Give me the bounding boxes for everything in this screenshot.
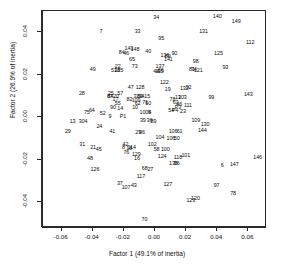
data-point-label: 61 (177, 129, 183, 134)
x-tick-mark (123, 227, 124, 231)
data-point-label: 39 (140, 118, 146, 123)
data-point-label: 31 (79, 142, 85, 147)
y-tick-mark (37, 159, 41, 160)
data-point-label: 125 (214, 51, 223, 56)
data-point-label: 143 (244, 93, 253, 98)
data-point-label: 131 (199, 30, 208, 35)
data-point-label: 96 (139, 130, 145, 135)
data-point-label: 23 (180, 109, 186, 114)
data-point-label: 48 (87, 156, 93, 161)
data-point-label: 78 (230, 192, 236, 197)
data-point-label: 45 (96, 147, 102, 152)
data-point-label: 50 (174, 136, 180, 141)
data-point-label: 76 (123, 150, 129, 155)
data-point-label: 90 (110, 105, 116, 110)
x-tick-label: -0.02 (116, 233, 130, 240)
data-point-label: 128 (136, 85, 145, 90)
data-point-label: 64 (89, 109, 95, 114)
data-point-label: 28 (79, 92, 85, 97)
data-point-label: 95 (158, 36, 164, 41)
data-point-label: 97 (214, 183, 220, 188)
y-tick-label: 0.04 (21, 25, 28, 37)
data-point-label: 149 (232, 19, 241, 24)
scatter-plot-figure: 3414014973313195112143148844640136899012… (0, 0, 294, 274)
data-point-label: 126 (91, 167, 100, 172)
y-tick-label: 0.00 (21, 110, 28, 122)
data-point-label: 144 (198, 128, 207, 133)
data-point-label: 100 (161, 147, 170, 152)
x-tick-label: 0.06 (241, 233, 253, 240)
y-tick-mark (37, 31, 41, 32)
data-point-label: 5 (148, 110, 151, 115)
x-tick-label: 0.04 (210, 233, 222, 240)
y-tick-mark (37, 116, 41, 117)
data-point-label: 93 (222, 65, 228, 70)
data-point-label: 140 (213, 15, 222, 20)
data-point-label: 15 (144, 94, 150, 99)
data-point-label: P1 (120, 114, 126, 119)
x-tick-mark (247, 227, 248, 231)
data-point-label: 121 (194, 68, 203, 73)
data-point-label: 13 (70, 119, 76, 124)
data-point-label: 35 (117, 69, 123, 74)
data-point-label: 46 (123, 51, 129, 56)
data-point-label: 50 (145, 101, 151, 106)
data-point-label: 122 (160, 81, 169, 86)
y-tick-label: 0.02 (21, 68, 28, 80)
x-tick-mark (185, 227, 186, 231)
data-point-label: 27 (147, 167, 153, 172)
data-point-label: 6 (221, 163, 224, 168)
x-tick-label: -0.06 (54, 233, 68, 240)
data-point-label: 24 (96, 124, 102, 129)
data-point-label: 98 (193, 60, 199, 65)
x-tick-mark (92, 227, 93, 231)
data-point-label: 115 (155, 69, 163, 74)
data-point-label: 92 (186, 86, 192, 91)
data-point-label: 147 (230, 163, 239, 168)
y-axis-line (41, 10, 42, 227)
plot-panel: 3414014973313195112143148844640136899012… (42, 10, 266, 227)
data-point-label: 16 (134, 157, 140, 162)
data-point-label: 120 (191, 196, 200, 201)
data-point-label: 7 (99, 30, 102, 35)
data-point-label: 107 (122, 185, 131, 190)
data-point-label: 47 (128, 85, 134, 90)
data-point-label: 29 (65, 130, 71, 135)
data-point-label: 43 (131, 184, 137, 189)
data-point-label: 127 (163, 183, 172, 188)
data-point-label: 73 (132, 64, 138, 69)
data-point-label: 124 (158, 154, 167, 159)
y-tick-label: -0.04 (21, 194, 28, 208)
data-point-label: 10 (132, 106, 138, 111)
data-point-label: 19 (165, 87, 171, 92)
x-axis-title: Factor 1 (49.1% of inertia) (0, 250, 294, 257)
data-point-label: P4 (172, 108, 178, 113)
data-point-label: 70 (142, 218, 148, 223)
x-tick-label: 0.02 (179, 233, 191, 240)
x-tick-label: 0.00 (148, 233, 160, 240)
data-point-label: 141 (164, 58, 173, 63)
data-point-label: 304 (79, 120, 88, 125)
x-tick-mark (61, 227, 62, 231)
data-point-label: 41 (109, 129, 115, 134)
data-point-label: 101 (181, 153, 190, 158)
data-point-label: 104 (156, 136, 165, 141)
data-point-label: 99 (208, 95, 214, 100)
y-axis-title: Factor 2 (26.9% of inertia) (9, 42, 16, 118)
data-point-label: 117 (137, 175, 145, 180)
data-point-label: 148 (131, 47, 140, 52)
data-point-label: 65 (129, 58, 135, 63)
data-point-label: 103 (178, 96, 187, 101)
x-tick-mark (216, 227, 217, 231)
data-point-label: 40 (145, 50, 151, 55)
x-tick-label: -0.04 (85, 233, 99, 240)
y-tick-label: -0.02 (21, 152, 28, 166)
y-tick-mark (37, 201, 41, 202)
data-point-label: 49 (90, 67, 96, 72)
data-point-label: 89 (151, 119, 157, 124)
data-point-label: 112 (246, 41, 254, 46)
data-point-label: 9 (108, 115, 111, 120)
y-tick-mark (37, 74, 41, 75)
data-point-label: 14 (117, 107, 123, 112)
data-point-label: 34 (153, 15, 159, 20)
